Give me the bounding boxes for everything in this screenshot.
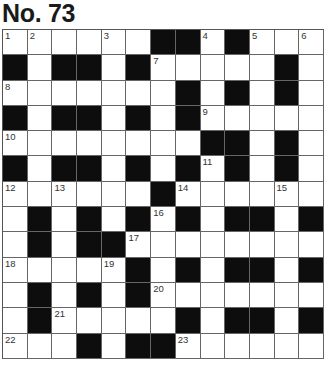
answer-cell[interactable] — [151, 156, 176, 181]
answer-cell[interactable] — [201, 55, 226, 80]
answer-cell[interactable] — [176, 131, 201, 156]
answer-cell[interactable]: 22 — [3, 334, 28, 359]
answer-cell[interactable] — [275, 106, 300, 131]
answer-cell[interactable] — [77, 81, 102, 106]
answer-cell[interactable] — [201, 81, 226, 106]
answer-cell[interactable]: 23 — [176, 334, 201, 359]
answer-cell[interactable] — [275, 308, 300, 333]
answer-cell[interactable] — [28, 156, 53, 181]
answer-cell[interactable] — [102, 334, 127, 359]
answer-cell[interactable] — [52, 131, 77, 156]
answer-cell[interactable] — [225, 232, 250, 257]
answer-cell[interactable] — [126, 30, 151, 55]
answer-cell[interactable] — [102, 283, 127, 308]
answer-cell[interactable]: 20 — [151, 283, 176, 308]
answer-cell[interactable]: 11 — [201, 156, 226, 181]
answer-cell[interactable] — [102, 308, 127, 333]
answer-cell[interactable] — [3, 232, 28, 257]
answer-cell[interactable] — [3, 283, 28, 308]
answer-cell[interactable] — [102, 156, 127, 181]
answer-cell[interactable] — [250, 334, 275, 359]
answer-cell[interactable] — [102, 81, 127, 106]
answer-cell[interactable]: 1 — [3, 30, 28, 55]
answer-cell[interactable] — [151, 106, 176, 131]
answer-cell[interactable] — [201, 182, 226, 207]
answer-cell[interactable] — [77, 131, 102, 156]
answer-cell[interactable]: 18 — [3, 258, 28, 283]
answer-cell[interactable] — [151, 308, 176, 333]
answer-cell[interactable] — [299, 334, 324, 359]
answer-cell[interactable] — [250, 283, 275, 308]
answer-cell[interactable] — [28, 55, 53, 80]
answer-cell[interactable] — [102, 182, 127, 207]
answer-cell[interactable] — [28, 182, 53, 207]
answer-cell[interactable] — [299, 55, 324, 80]
answer-cell[interactable] — [52, 283, 77, 308]
answer-cell[interactable] — [28, 258, 53, 283]
answer-cell[interactable] — [151, 131, 176, 156]
answer-cell[interactable] — [52, 334, 77, 359]
answer-cell[interactable] — [151, 258, 176, 283]
answer-cell[interactable] — [225, 283, 250, 308]
answer-cell[interactable] — [250, 131, 275, 156]
answer-cell[interactable] — [201, 283, 226, 308]
answer-cell[interactable] — [126, 182, 151, 207]
answer-cell[interactable]: 7 — [151, 55, 176, 80]
answer-cell[interactable] — [52, 30, 77, 55]
answer-cell[interactable] — [275, 283, 300, 308]
answer-cell[interactable] — [225, 106, 250, 131]
answer-cell[interactable]: 3 — [102, 30, 127, 55]
answer-cell[interactable] — [225, 55, 250, 80]
answer-cell[interactable] — [275, 334, 300, 359]
answer-cell[interactable] — [176, 283, 201, 308]
answer-cell[interactable]: 12 — [3, 182, 28, 207]
answer-cell[interactable]: 8 — [3, 81, 28, 106]
answer-cell[interactable] — [201, 334, 226, 359]
answer-cell[interactable] — [102, 55, 127, 80]
answer-cell[interactable] — [299, 81, 324, 106]
answer-cell[interactable] — [3, 207, 28, 232]
answer-cell[interactable] — [176, 55, 201, 80]
answer-cell[interactable] — [28, 131, 53, 156]
answer-cell[interactable] — [275, 258, 300, 283]
answer-cell[interactable] — [250, 156, 275, 181]
answer-cell[interactable] — [28, 334, 53, 359]
answer-cell[interactable] — [28, 106, 53, 131]
answer-cell[interactable]: 9 — [201, 106, 226, 131]
answer-cell[interactable] — [201, 258, 226, 283]
answer-cell[interactable] — [299, 131, 324, 156]
answer-cell[interactable] — [102, 131, 127, 156]
answer-cell[interactable] — [77, 308, 102, 333]
answer-cell[interactable] — [299, 106, 324, 131]
answer-cell[interactable]: 17 — [126, 232, 151, 257]
answer-cell[interactable] — [102, 207, 127, 232]
answer-cell[interactable] — [250, 55, 275, 80]
answer-cell[interactable] — [299, 156, 324, 181]
answer-cell[interactable]: 15 — [275, 182, 300, 207]
answer-cell[interactable] — [28, 81, 53, 106]
answer-cell[interactable] — [102, 106, 127, 131]
answer-cell[interactable] — [299, 283, 324, 308]
answer-cell[interactable] — [77, 30, 102, 55]
answer-cell[interactable] — [250, 182, 275, 207]
answer-cell[interactable]: 21 — [52, 308, 77, 333]
answer-cell[interactable]: 6 — [299, 30, 324, 55]
answer-cell[interactable] — [201, 207, 226, 232]
answer-cell[interactable] — [299, 182, 324, 207]
answer-cell[interactable]: 16 — [151, 207, 176, 232]
answer-cell[interactable]: 5 — [250, 30, 275, 55]
answer-cell[interactable] — [250, 106, 275, 131]
answer-cell[interactable] — [151, 81, 176, 106]
answer-cell[interactable] — [299, 232, 324, 257]
answer-cell[interactable] — [275, 30, 300, 55]
answer-cell[interactable]: 4 — [201, 30, 226, 55]
answer-cell[interactable] — [176, 232, 201, 257]
answer-cell[interactable] — [151, 232, 176, 257]
answer-cell[interactable] — [250, 81, 275, 106]
answer-cell[interactable] — [52, 258, 77, 283]
answer-cell[interactable]: 14 — [176, 182, 201, 207]
answer-cell[interactable] — [201, 232, 226, 257]
answer-cell[interactable] — [201, 308, 226, 333]
answer-cell[interactable]: 10 — [3, 131, 28, 156]
answer-cell[interactable]: 19 — [102, 258, 127, 283]
